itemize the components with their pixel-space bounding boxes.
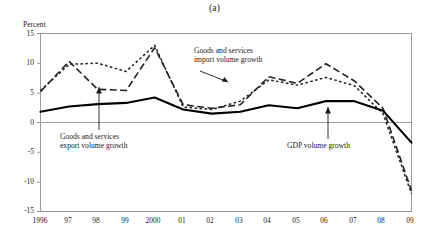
- series-layer: [41, 45, 412, 193]
- series-line-gdp: [41, 98, 412, 143]
- series-line-export: [41, 48, 412, 191]
- import-annotation-arrow: [200, 71, 228, 82]
- chart-figure: (a) Percent 15 10 5 0 -5 -10 -15 1996 97…: [0, 0, 429, 244]
- series-line-import: [41, 45, 412, 193]
- annotation-arrows: [96, 71, 331, 139]
- export-annotation-arrow: [96, 87, 102, 130]
- plot-area: [0, 0, 429, 244]
- y-tick-marks: [37, 34, 40, 212]
